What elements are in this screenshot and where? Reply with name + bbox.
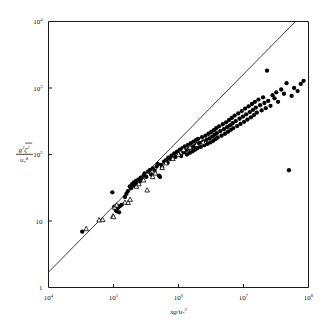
x-axis-title-text: xg/u*2 — [169, 307, 187, 316]
data-point-circle — [262, 101, 266, 105]
data-point-circle — [279, 87, 283, 91]
data-point-circle — [259, 108, 263, 112]
data-point-circle — [287, 168, 291, 172]
data-point-circle — [265, 69, 269, 73]
data-point-circle — [292, 86, 296, 90]
data-point-circle — [232, 113, 236, 117]
data-point-circle — [284, 81, 288, 85]
y-axis-ticks — [49, 88, 53, 221]
y-tick-label: 104 — [33, 17, 43, 26]
y-tick-label: 1 — [39, 284, 43, 292]
y-axis-tick-labels: 104103102101 — [33, 17, 43, 292]
y-tick-label: 103 — [33, 84, 43, 93]
x-axis-title: xg/u*2 — [169, 307, 187, 316]
plot-canvas: 104105106107108 104103102101 xg/u*2 g2ζ2… — [0, 0, 330, 324]
x-tick-label: 108 — [304, 293, 314, 302]
data-point-circle — [236, 111, 240, 115]
y-axis-title: g2ζ2u*4 — [16, 143, 33, 165]
data-point-circle — [272, 96, 276, 100]
data-point-circle — [274, 90, 278, 94]
data-point-circle — [215, 135, 219, 139]
reference-line-group — [49, 22, 296, 273]
data-point-circle — [264, 106, 268, 110]
y-axis-title-denominator: u*4 — [20, 156, 29, 165]
x-axis-ticks — [114, 284, 244, 288]
data-point-circle — [256, 97, 260, 101]
data-point-circle — [268, 104, 272, 108]
data-point-circle — [301, 79, 305, 83]
data-point-triangle — [84, 226, 89, 230]
data-point-circle — [254, 105, 258, 109]
y-tick-label: 10 — [36, 218, 44, 226]
data-point-circle — [117, 210, 121, 214]
data-point-circle — [266, 99, 270, 103]
data-point-circle — [234, 119, 238, 123]
data-point-circle — [261, 95, 265, 99]
data-point-circle — [258, 103, 262, 107]
data-point-triangle — [128, 197, 133, 201]
data-markers-group — [80, 69, 306, 234]
x-tick-label: 104 — [44, 293, 54, 302]
data-point-circle — [276, 100, 280, 104]
data-point-circle — [110, 190, 114, 194]
x-axis-tick-labels: 104105106107108 — [44, 293, 314, 302]
data-point-circle — [158, 175, 162, 179]
data-point-circle — [295, 89, 299, 93]
y-tick-label: 102 — [33, 150, 43, 159]
data-point-circle — [244, 112, 248, 116]
y-axis-title-numerator: g2ζ2 — [19, 145, 31, 154]
data-point-circle — [126, 189, 130, 193]
reference-line — [49, 22, 296, 273]
x-tick-label: 107 — [239, 293, 249, 302]
data-point-circle — [196, 137, 200, 141]
x-tick-label: 105 — [109, 293, 119, 302]
data-point-circle — [253, 100, 257, 104]
data-point-circle — [255, 111, 259, 115]
data-point-circle — [217, 124, 221, 128]
data-point-circle — [231, 126, 235, 130]
scatter-plot-figure: 104105106107108 104103102101 xg/u*2 g2ζ2… — [0, 0, 330, 324]
data-point-triangle — [145, 188, 150, 192]
data-point-circle — [144, 175, 148, 179]
data-point-circle — [282, 92, 286, 96]
x-tick-label: 106 — [174, 293, 184, 302]
data-point-circle — [289, 94, 293, 98]
